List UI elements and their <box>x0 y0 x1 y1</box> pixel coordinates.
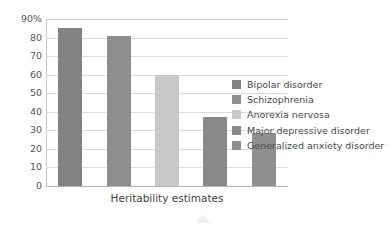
y-axis-tick-label: 30 <box>2 125 42 135</box>
y-axis-tick-label: 90% <box>2 14 42 24</box>
y-axis-tick-label: 40 <box>2 107 42 117</box>
y-axis-tick-label: 60 <box>2 70 42 80</box>
legend-item: Major depressive disorder <box>232 123 384 138</box>
y-axis-tick-label: 50 <box>2 88 42 98</box>
legend-swatch-icon <box>232 95 241 104</box>
bar-chart: 90%80706050403020100 Heritability estima… <box>0 0 391 238</box>
legend-item: Generalized anxiety disorder <box>232 138 384 153</box>
bar <box>107 36 131 186</box>
gridline <box>46 186 288 187</box>
legend-item-label: Generalized anxiety disorder <box>247 140 384 151</box>
bar <box>155 75 179 186</box>
scan-artifact <box>196 214 210 223</box>
x-axis-label: Heritability estimates <box>46 192 288 204</box>
legend-item-label: Anorexia nervosa <box>247 109 330 120</box>
legend-item: Schizophrenia <box>232 92 384 107</box>
legend-item: Bipolar disorder <box>232 77 384 92</box>
y-axis-tick-label: 20 <box>2 144 42 154</box>
legend: Bipolar disorderSchizophreniaAnorexia ne… <box>232 77 384 153</box>
y-axis-tick-label: 80 <box>2 33 42 43</box>
legend-swatch-icon <box>232 141 241 150</box>
y-axis-tick-label: 70 <box>2 51 42 61</box>
bar <box>203 117 227 186</box>
legend-item: Anorexia nervosa <box>232 107 384 122</box>
legend-swatch-icon <box>232 80 241 89</box>
legend-swatch-icon <box>232 110 241 119</box>
legend-item-label: Major depressive disorder <box>247 125 370 136</box>
legend-item-label: Schizophrenia <box>247 94 314 105</box>
legend-swatch-icon <box>232 126 241 135</box>
legend-item-label: Bipolar disorder <box>247 79 322 90</box>
bar <box>58 28 82 186</box>
y-axis-tick-label: 0 <box>2 181 42 191</box>
y-axis-tick-label: 10 <box>2 162 42 172</box>
